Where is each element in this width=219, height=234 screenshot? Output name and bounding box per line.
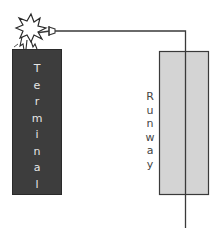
terminal-label-letter: e: [34, 79, 41, 92]
runway-label-letter: y: [147, 158, 154, 171]
terminal-label-letter: l: [35, 178, 38, 191]
terminal-label-letter: n: [34, 145, 41, 158]
terminal-label-letter: a: [34, 161, 41, 174]
airport-diagram: Terminal Terminal Runway Runway: [0, 0, 219, 234]
runway-box[interactable]: [160, 52, 209, 195]
runway-label-letters: Runway: [146, 90, 155, 171]
runway-label-letter: w: [146, 131, 155, 144]
terminal-label-letter: r: [35, 95, 40, 108]
terminal-label-letter: i: [35, 128, 38, 141]
runway-label-letter: u: [147, 104, 154, 117]
runway-label-letter: R: [146, 90, 154, 103]
terminal-label-letter: T: [33, 62, 41, 75]
runway-label-letter: a: [147, 144, 154, 157]
terminal-label-letter: m: [32, 112, 43, 125]
runway-label-letter: n: [147, 117, 154, 130]
